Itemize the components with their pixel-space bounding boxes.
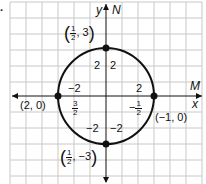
point-bottom-label: (12, −3) <box>60 148 97 166</box>
x-axis-label: x <box>192 98 198 110</box>
n-axis-label: N <box>112 4 121 16</box>
label-upper-right: 2 <box>110 60 116 71</box>
point-bottom <box>103 141 110 148</box>
label-lower-right: −2 <box>110 123 123 134</box>
label-left-frac: 32 <box>72 100 78 117</box>
coordinate-grid <box>0 0 206 184</box>
point-left-label: (2, 0) <box>20 100 46 111</box>
label-right-frac: −12 <box>129 100 142 117</box>
point-top-label: (12, 3) <box>64 24 95 42</box>
y-axis-arrow-down <box>103 177 109 183</box>
axes <box>12 4 202 182</box>
y-axis-label: y <box>96 4 102 16</box>
m-axis-label: M <box>190 80 200 92</box>
problem-marker: . <box>0 2 3 13</box>
y-axis-arrow-up <box>103 4 109 10</box>
label-upper-left: 2 <box>94 60 100 71</box>
point-right-label: (−1, 0) <box>155 112 187 123</box>
x-axis-arrow-left <box>12 93 18 99</box>
point-right <box>151 93 158 100</box>
label-lower-left: −2 <box>86 123 99 134</box>
point-left <box>55 93 62 100</box>
label-right-top: 2 <box>136 83 142 94</box>
point-top <box>103 45 110 52</box>
label-left-top: −2 <box>68 83 81 94</box>
